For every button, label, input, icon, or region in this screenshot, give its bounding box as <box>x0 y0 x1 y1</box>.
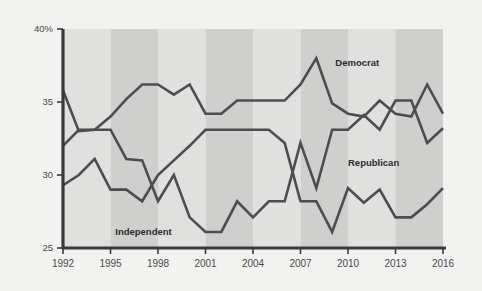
x-axis: 199219951998200120042007201020132016 <box>52 248 455 269</box>
background-band <box>396 29 444 248</box>
x-axis-tick-label: 2013 <box>384 258 407 269</box>
x-axis-tick-label: 2004 <box>242 258 265 269</box>
y-axis-tick-label: 35 <box>42 96 53 107</box>
background-bands <box>63 29 443 248</box>
background-band <box>253 29 301 248</box>
y-axis-tick-label: 30 <box>42 169 53 180</box>
series-annotation-independent: Independent <box>115 226 172 237</box>
x-axis-tick-label: 2010 <box>337 258 360 269</box>
background-band <box>111 29 159 248</box>
series-annotation-democrat: Democrat <box>335 57 380 68</box>
x-axis-tick-label: 2016 <box>432 258 455 269</box>
y-axis: 40%353025 <box>34 23 63 253</box>
series-annotation-republican: Republican <box>348 157 399 168</box>
chart-canvas: 40%353025 199219951998200120042007201020… <box>0 0 482 291</box>
x-axis-tick-label: 1998 <box>147 258 170 269</box>
x-axis-tick-label: 1992 <box>52 258 75 269</box>
x-axis-tick-label: 2001 <box>194 258 217 269</box>
y-axis-tick-label: 25 <box>42 242 53 253</box>
x-axis-tick-label: 2007 <box>289 258 312 269</box>
party-identification-chart: 40%353025 199219951998200120042007201020… <box>0 0 482 291</box>
y-axis-tick-label: 40% <box>34 23 54 34</box>
x-axis-tick-label: 1995 <box>99 258 122 269</box>
